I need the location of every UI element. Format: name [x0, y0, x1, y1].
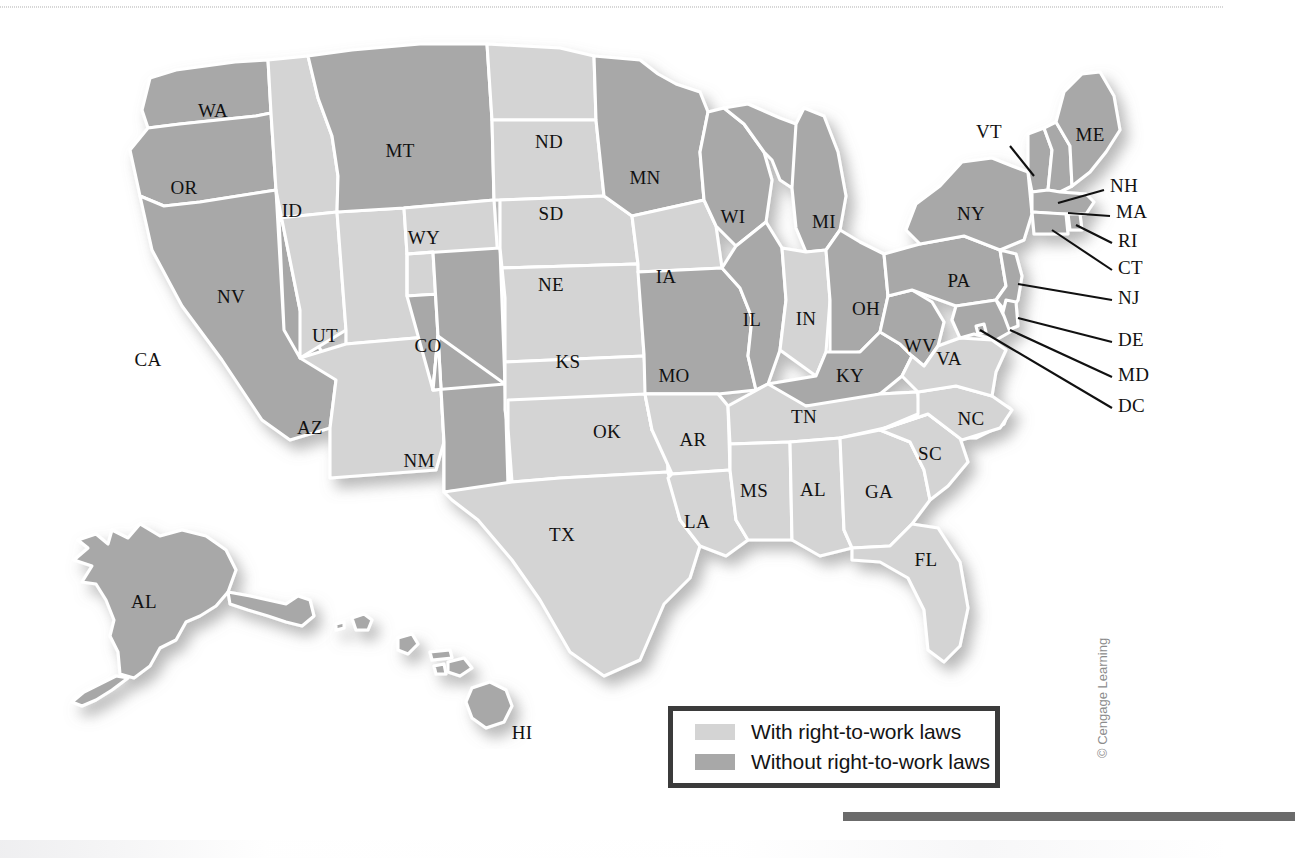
leader-de [1018, 318, 1112, 342]
legend-label-with: With right-to-work laws [751, 720, 961, 744]
label-mi: MI [812, 211, 836, 232]
label-ia: IA [656, 266, 677, 287]
label-ne: NE [538, 274, 564, 295]
label-mt: MT [385, 140, 414, 161]
label-wv: WV [904, 335, 936, 356]
alaska-group [72, 524, 314, 706]
state-ok-body[interactable] [508, 394, 668, 482]
label-ok: OK [593, 421, 621, 442]
contiguous-states-group [130, 44, 1120, 676]
hawaii-bigisland[interactable] [466, 682, 512, 728]
scan-artifact-bar [843, 812, 1295, 821]
label-la: LA [684, 511, 710, 532]
label-oh: OH [852, 298, 880, 319]
label-ms: MS [740, 480, 768, 501]
legend-label-without: Without right-to-work laws [751, 750, 990, 774]
hawaii-niihau[interactable] [336, 622, 344, 630]
callout-dc: DC [1118, 395, 1145, 416]
label-fl: FL [915, 549, 938, 570]
callout-ri: RI [1118, 230, 1138, 251]
label-ut: UT [312, 325, 338, 346]
leader-ct [1052, 230, 1112, 270]
label-nc: NC [958, 408, 985, 429]
leader-nj [1018, 284, 1112, 300]
label-wi: WI [721, 206, 746, 227]
hawaii-lanai[interactable] [434, 664, 446, 674]
state-ct[interactable] [1032, 212, 1068, 234]
label-az: AZ [297, 417, 323, 438]
label-pa: PA [947, 270, 970, 291]
state-ks-body[interactable] [502, 264, 644, 362]
label-wa: WA [198, 100, 228, 121]
alaska-panhandle[interactable] [228, 592, 314, 626]
hawaii-molokai[interactable] [430, 650, 452, 660]
callout-nj: NJ [1118, 287, 1140, 308]
label-ca: CA [135, 349, 162, 370]
label-sd: SD [539, 203, 564, 224]
label-nv: NV [217, 286, 245, 307]
legend-swatch-with [695, 724, 735, 740]
label-ga: GA [865, 481, 893, 502]
label-co: CO [415, 335, 442, 356]
state-tx[interactable] [444, 472, 700, 676]
hawaii-oahu[interactable] [398, 634, 418, 654]
label-ky: KY [836, 365, 864, 386]
label-va: VA [936, 348, 962, 369]
legend-row-without[interactable]: Without right-to-work laws [695, 748, 995, 776]
label-al: AL [800, 479, 826, 500]
label-il: IL [743, 309, 762, 330]
hawaii-group [336, 614, 512, 728]
label-in: IN [796, 308, 817, 329]
label-ar: AR [680, 429, 707, 450]
callout-nh: NH [1110, 175, 1138, 196]
hawaii-maui[interactable] [448, 658, 472, 676]
label-hi: HI [512, 722, 533, 743]
label-nm: NM [403, 450, 434, 471]
callout-ct: CT [1118, 257, 1143, 278]
state-mn[interactable] [594, 56, 708, 216]
hawaii-kauai[interactable] [352, 614, 372, 630]
alaska-aleutians[interactable] [72, 676, 128, 706]
scan-artifact-bottom [0, 840, 1224, 858]
label-or: OR [171, 177, 198, 198]
callout-de: DE [1118, 329, 1144, 350]
callout-md: MD [1118, 364, 1149, 385]
callout-vt: VT [976, 121, 1002, 142]
label-nd: ND [535, 131, 563, 152]
map-legend: With right-to-work laws Without right-to… [668, 706, 1000, 788]
label-ks: KS [556, 351, 581, 372]
label-me: ME [1075, 124, 1104, 145]
legend-row-with[interactable]: With right-to-work laws [695, 718, 995, 746]
state-nd[interactable] [487, 44, 596, 120]
label-id: ID [282, 200, 303, 221]
label-mn: MN [629, 167, 660, 188]
label-tn: TN [791, 406, 817, 427]
label-wy: WY [408, 227, 440, 248]
label-sc: SC [918, 443, 942, 464]
label-ny: NY [957, 203, 985, 224]
callout-ma: MA [1116, 201, 1147, 222]
copyright-credit: © Cengage Learning [1093, 738, 1253, 758]
label-tx: TX [549, 524, 575, 545]
legend-swatch-without [695, 754, 735, 770]
label-mo: MO [658, 365, 689, 386]
label-ak: AL [131, 591, 157, 612]
leader-ri [1076, 225, 1112, 243]
